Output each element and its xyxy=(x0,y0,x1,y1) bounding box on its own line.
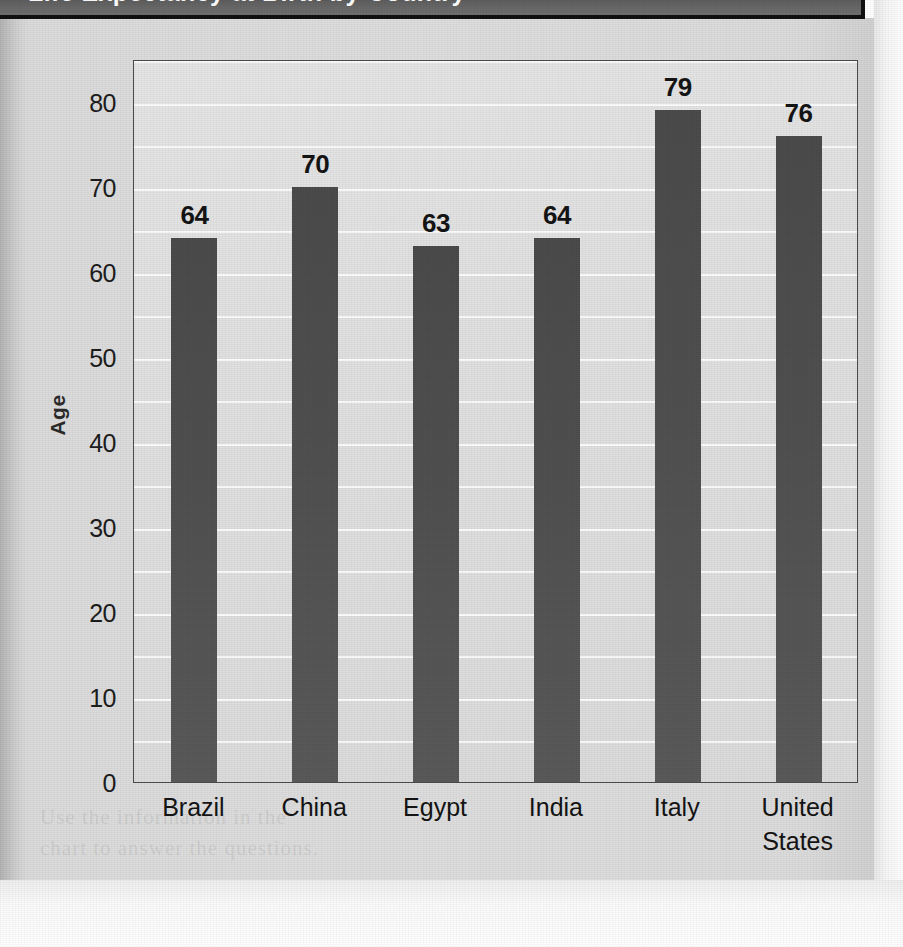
bar xyxy=(534,238,580,782)
page-bottom-margin xyxy=(0,880,903,947)
plot-area: 647063647976 xyxy=(133,60,858,783)
x-axis-tick-label-line: China xyxy=(254,790,375,824)
x-axis-tick-label: Italy xyxy=(616,790,737,824)
x-axis-tick-label: Egypt xyxy=(375,790,496,824)
y-axis-tick-labels: 01020304050607080 xyxy=(56,60,126,783)
bar-value-label: 76 xyxy=(754,98,844,129)
y-axis-tick-label: 20 xyxy=(89,598,116,627)
y-axis-tick-label: 10 xyxy=(89,683,116,712)
x-axis-tick-label-line: Brazil xyxy=(133,790,254,824)
y-axis-tick-label: 80 xyxy=(89,88,116,117)
y-axis-tick-label: 0 xyxy=(103,769,116,798)
y-axis-tick-label: 70 xyxy=(89,173,116,202)
bar-value-label: 79 xyxy=(633,72,723,103)
bar xyxy=(292,187,338,782)
bar-value-label: 63 xyxy=(391,208,481,239)
bar xyxy=(776,136,822,782)
x-axis-tick-labels: BrazilChinaEgyptIndiaItalyUnitedStates xyxy=(133,790,858,880)
scanned-page: the chart below shows the life expectanc… xyxy=(0,0,903,947)
page-right-margin xyxy=(874,0,903,947)
x-axis-tick-label-line: Italy xyxy=(616,790,737,824)
chart-title-banner: Life Expectancy at Birth by Country xyxy=(0,0,865,19)
y-axis-tick-label: 40 xyxy=(89,428,116,457)
x-axis-tick-label: UnitedStates xyxy=(737,790,858,858)
x-axis-tick-label: China xyxy=(254,790,375,824)
bar-value-label: 70 xyxy=(270,149,360,180)
bar xyxy=(171,238,217,782)
bar-chart: Age 01020304050607080 647063647976 Brazi… xyxy=(0,18,874,880)
y-axis-tick-label: 30 xyxy=(89,513,116,542)
chart-title-text: Life Expectancy at Birth by Country xyxy=(28,0,466,7)
x-axis-tick-label: Brazil xyxy=(133,790,254,824)
y-axis-tick-label: 60 xyxy=(89,258,116,287)
y-axis-tick-label: 50 xyxy=(89,343,116,372)
x-axis-tick-label-line: India xyxy=(496,790,617,824)
bars-layer: 647063647976 xyxy=(134,61,857,782)
x-axis-tick-label-line: United xyxy=(737,790,858,824)
x-axis-tick-label-line: Egypt xyxy=(375,790,496,824)
bar-value-label: 64 xyxy=(149,200,239,231)
bar-value-label: 64 xyxy=(512,200,602,231)
bar xyxy=(655,110,701,782)
x-axis-tick-label-line: States xyxy=(737,824,858,858)
x-axis-tick-label: India xyxy=(496,790,617,824)
bar xyxy=(413,246,459,782)
